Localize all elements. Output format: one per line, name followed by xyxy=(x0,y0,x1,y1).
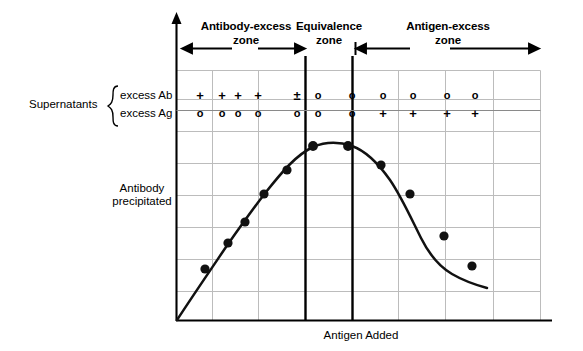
supernatant-symbol: + xyxy=(230,89,246,102)
supernatant-symbol: o xyxy=(289,107,305,120)
supernatant-symbol: + xyxy=(439,107,455,120)
supernatant-symbol: o xyxy=(344,89,360,102)
supernatant-symbol: o xyxy=(310,89,326,102)
supernatant-symbol: o xyxy=(250,107,266,120)
supernatant-symbol: + xyxy=(214,89,230,102)
supernatant-symbol: + xyxy=(250,89,266,102)
supernatant-symbol: o xyxy=(230,107,246,120)
supernatant-symbol: o xyxy=(192,107,208,120)
supernatant-symbol: o xyxy=(310,107,326,120)
supernatant-symbol: o xyxy=(344,107,360,120)
supernatant-symbol: + xyxy=(467,107,483,120)
supernatant-symbol-grid: ++++±ooooooooooooo++++ xyxy=(0,0,583,351)
supernatant-symbol: + xyxy=(375,107,391,120)
supernatant-symbol: + xyxy=(405,107,421,120)
supernatant-symbol: o xyxy=(439,89,455,102)
supernatant-symbol: ± xyxy=(289,89,305,102)
supernatant-symbol: o xyxy=(467,89,483,102)
supernatant-symbol: o xyxy=(405,89,421,102)
supernatant-symbol: o xyxy=(214,107,230,120)
supernatant-symbol: o xyxy=(375,89,391,102)
precipitin-curve-figure: Antibody-excess zone Equivalence zone An… xyxy=(0,0,583,351)
supernatant-symbol: + xyxy=(192,89,208,102)
x-axis-title: Antigen Added xyxy=(276,329,446,342)
y-axis-title: Antibody precipitated xyxy=(100,182,184,208)
